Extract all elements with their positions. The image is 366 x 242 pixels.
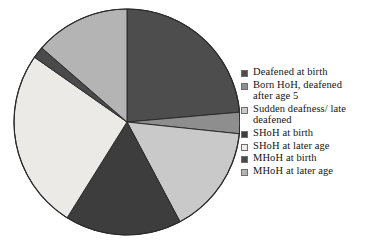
chart-legend: Deafened at birthBorn HoH, deafened afte…	[241, 66, 366, 177]
legend-item: Deafened at birth	[241, 66, 366, 78]
legend-item: MHoH at birth	[241, 152, 366, 164]
legend-item: SHoH at birth	[241, 127, 366, 139]
pie-chart-plot-area	[0, 0, 240, 242]
legend-swatch-icon	[241, 131, 248, 138]
legend-item: Born HoH, deafened after age 5	[241, 79, 366, 102]
legend-item: Sudden deafness/ late deafened	[241, 103, 366, 126]
legend-item: MHoH at later age	[241, 165, 366, 177]
legend-item-label: Born HoH, deafened after age 5	[253, 79, 342, 102]
pie-slice	[127, 9, 240, 122]
legend-item-label: SHoH at birth	[253, 127, 313, 139]
legend-item-label: SHoH at later age	[253, 140, 330, 152]
legend-swatch-icon	[241, 70, 248, 77]
legend-item-label: MHoH at later age	[253, 165, 333, 177]
legend-item: SHoH at later age	[241, 140, 366, 152]
legend-swatch-icon	[241, 107, 248, 114]
legend-swatch-icon	[241, 144, 248, 151]
legend-item-label: MHoH at birth	[253, 152, 317, 164]
legend-swatch-icon	[241, 156, 248, 163]
pie-chart-figure: Deafened at birthBorn HoH, deafened afte…	[0, 0, 366, 242]
legend-swatch-icon	[241, 169, 248, 176]
legend-swatch-icon	[241, 83, 248, 90]
pie-chart-svg	[0, 0, 240, 242]
legend-item-label: Deafened at birth	[253, 66, 328, 78]
legend-item-label: Sudden deafness/ late deafened	[253, 103, 346, 126]
